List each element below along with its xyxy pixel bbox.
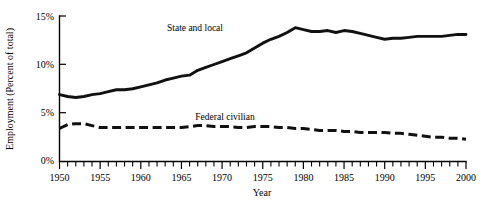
x-tick-label-1955: 1955 xyxy=(90,172,110,183)
x-axis-title: Year xyxy=(253,187,272,198)
chart-canvas: Employment (Percent of total) 0% 5% 10% … xyxy=(0,0,490,211)
chart-figure: Employment (Percent of total) 0% 5% 10% … xyxy=(0,0,490,211)
x-tick-label-1985: 1985 xyxy=(334,172,354,183)
y-tick-label-15: 15% xyxy=(36,11,54,22)
y-tick-label-0: 0% xyxy=(41,155,54,166)
x-tick-marks xyxy=(60,162,467,170)
y-tick-label-10: 10% xyxy=(36,59,54,70)
x-tick-label-1990: 1990 xyxy=(375,172,395,183)
series-federal-civilian xyxy=(60,124,467,140)
x-tick-label-1975: 1975 xyxy=(253,172,273,183)
x-tick-label-1960: 1960 xyxy=(131,172,151,183)
x-tick-label-1950: 1950 xyxy=(50,172,70,183)
x-tick-label-1970: 1970 xyxy=(212,172,232,183)
x-tick-label-1980: 1980 xyxy=(293,172,313,183)
x-tick-labels: 1950195519601965197019751980198519901995… xyxy=(50,172,477,183)
y-tick-marks xyxy=(60,16,67,113)
series-label-federal-civilian: Federal civilian xyxy=(195,112,255,122)
x-tick-label-2000: 2000 xyxy=(456,172,476,183)
x-tick-label-1965: 1965 xyxy=(171,172,191,183)
y-tick-label-5: 5% xyxy=(41,107,54,118)
series-label-state-and-local: State and local xyxy=(167,23,223,33)
series-state-and-local xyxy=(60,28,467,98)
x-tick-label-1995: 1995 xyxy=(415,172,435,183)
y-axis-title: Employment (Percent of total) xyxy=(4,28,16,150)
